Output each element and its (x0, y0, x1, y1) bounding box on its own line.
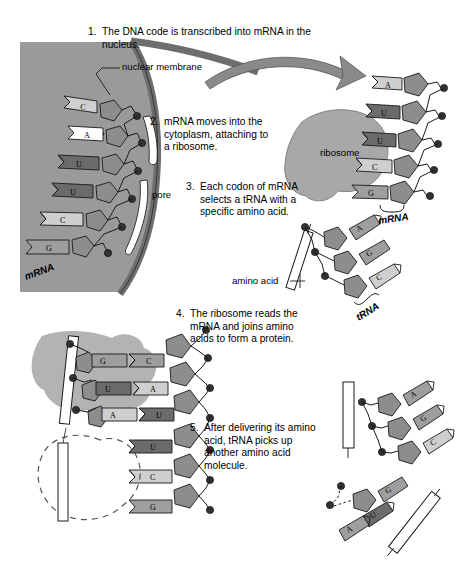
svg-text:G: G (368, 189, 374, 198)
step-1-number: 1. (88, 26, 97, 39)
svg-text:C: C (60, 216, 65, 225)
svg-text:U: U (377, 137, 383, 146)
step5-group: A G C G U A (326, 381, 454, 556)
protein-synthesis-diagram: C A U (0, 0, 473, 582)
step4-mrna-c: C (129, 470, 172, 483)
svg-text:G: G (150, 503, 156, 512)
step-2-number: 2. (150, 116, 159, 129)
nuclear-membrane-label: nuclear membrane (122, 61, 202, 72)
svg-text:U: U (156, 411, 162, 420)
step4-group: G C U A A U (32, 326, 214, 521)
svg-text:G: G (46, 244, 52, 253)
departing-trna-outline (38, 435, 140, 519)
svg-text:C: C (372, 163, 377, 172)
svg-text:A: A (150, 385, 156, 394)
cyto-nucleotide-1: A (372, 73, 448, 96)
svg-text:C: C (146, 357, 151, 366)
step5-trna: A G C (358, 381, 454, 464)
pore-label: pore (152, 189, 171, 200)
step-2-text: mRNA moves into the cytoplasm, attaching… (164, 116, 276, 154)
trna-group: A G C (286, 215, 401, 304)
step-3-text: Each codon of mRNA selects a tRNA with a… (200, 181, 312, 219)
svg-text:A: A (84, 131, 90, 140)
amino-acid-label: amino acid (232, 275, 278, 286)
svg-text:C: C (150, 473, 155, 482)
step-1-text: The DNA code is transcribed into mRNA in… (102, 26, 317, 51)
step4-mrna-u: U (129, 440, 172, 453)
diagram-canvas: C A U (0, 0, 473, 582)
step4-ribosome (32, 331, 157, 417)
step4-pair-au: A U (102, 408, 174, 421)
step-5-number: 5. (190, 422, 199, 435)
step-4-text: The ribosome reads the mRNA and joins am… (190, 308, 320, 346)
svg-text:U: U (150, 443, 156, 452)
svg-text:A: A (385, 81, 391, 90)
step-4-number: 4. (176, 308, 185, 321)
cytoplasm-mrna-strand: A U U (352, 73, 448, 212)
svg-text:U: U (76, 160, 82, 169)
step-3-number: 3. (186, 181, 195, 194)
step4-mrna-g: G (129, 500, 172, 513)
ribosome-label: ribosome (320, 147, 359, 158)
step5-free-trna: G U A (326, 477, 408, 541)
departing-amino-acid (58, 443, 68, 521)
svg-text:G: G (100, 357, 106, 366)
svg-text:A: A (110, 411, 116, 420)
step5-free-amino-acid (389, 491, 441, 553)
step5-amino-acid-bar (343, 382, 354, 448)
svg-text:U: U (70, 188, 76, 197)
step-5-text: After delivering its amino acid, tRNA pi… (204, 422, 322, 472)
svg-text:U: U (105, 385, 111, 394)
trna-nucleotide-c: C (321, 264, 401, 298)
svg-text:U: U (381, 109, 387, 118)
